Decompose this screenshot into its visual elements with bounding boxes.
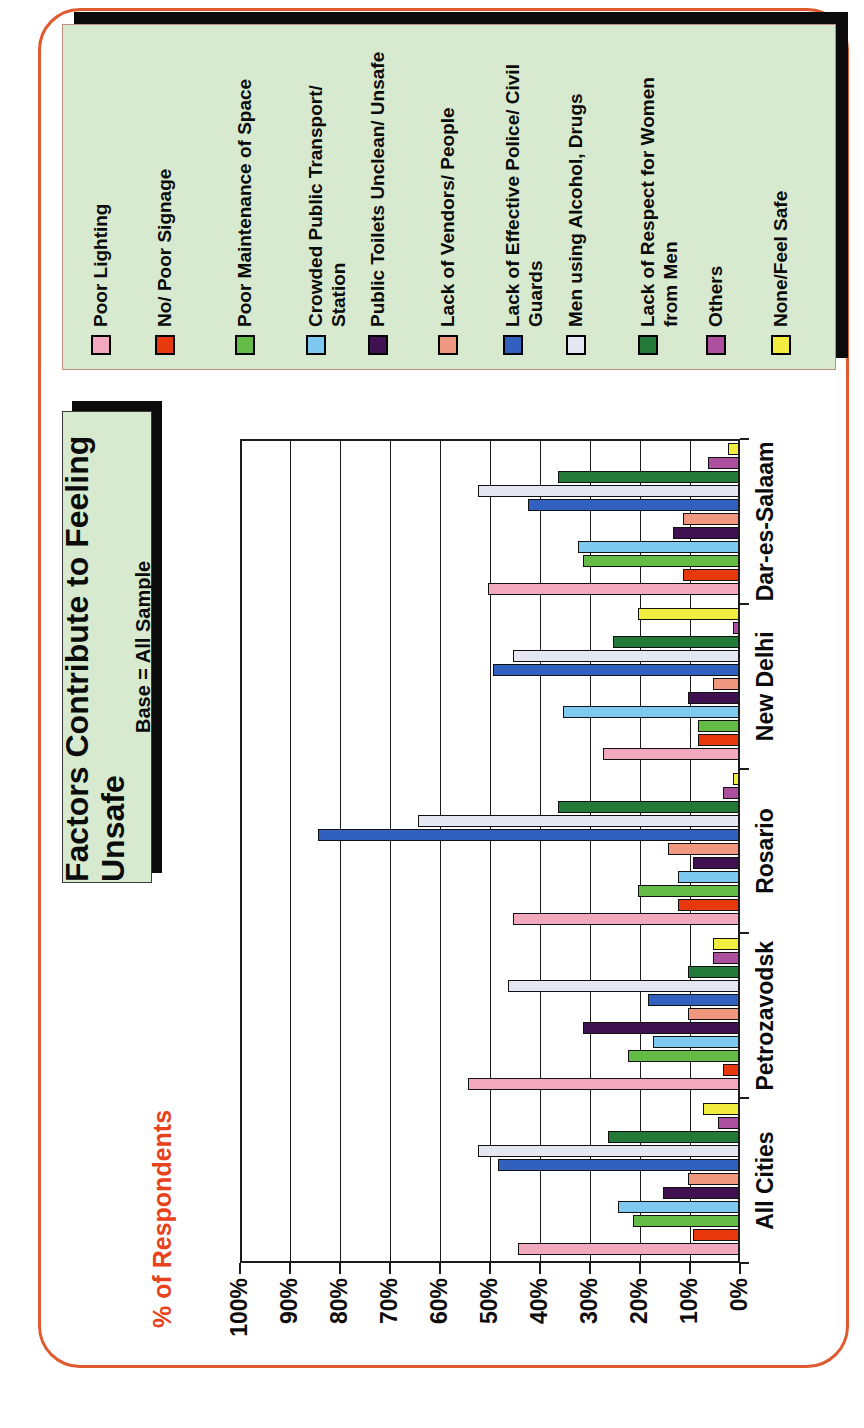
legend-item-crowded-public-transport-station: Crowded Public Transport/ Station <box>304 85 350 355</box>
y-axis-tick-60% <box>439 1263 441 1274</box>
bar-rosario-others <box>723 787 738 799</box>
bar-all-cities-lack-of-effective-police-civil-guards <box>498 1159 738 1171</box>
bar-dar-es-salaam-poor-lighting <box>488 583 738 595</box>
legend-item-no-poor-signage: No/ Poor Signage <box>153 169 176 355</box>
legend-item-public-toilets-unclean-unsafe: Public Toilets Unclean/ Unsafe <box>366 52 389 355</box>
bar-petrozavodsk-poor-lighting <box>468 1078 738 1090</box>
legend-swatch-others <box>706 335 726 355</box>
rotated-slide-content: Factors Contribute to Feeling Unsafe Bas… <box>0 0 864 1428</box>
bar-petrozavodsk-crowded-public-transport-station <box>653 1036 738 1048</box>
y-axis-label-100%: 100% <box>226 1278 253 1348</box>
legend-label-poor-maintenance-of-space: Poor Maintenance of Space <box>233 79 256 327</box>
bar-petrozavodsk-others <box>713 952 738 964</box>
bar-all-cities-poor-lighting <box>518 1243 738 1255</box>
y-axis-tick-0% <box>739 1263 741 1274</box>
legend-label-public-toilets-unclean-unsafe: Public Toilets Unclean/ Unsafe <box>366 52 389 327</box>
y-axis-label-30%: 30% <box>576 1278 603 1348</box>
category-axis-tick <box>740 603 749 605</box>
y-axis-label-40%: 40% <box>526 1278 553 1348</box>
y-axis-tick-90% <box>289 1263 291 1274</box>
bar-new-delhi-no-poor-signage <box>698 734 738 746</box>
category-label-petrozavodsk: Petrozavodsk <box>752 933 779 1098</box>
bar-new-delhi-crowded-public-transport-station <box>563 706 738 718</box>
legend-item-men-using-alcohol-drugs: Men using Alcohol, Drugs <box>564 93 587 355</box>
bar-new-delhi-none-feel-safe <box>638 608 738 620</box>
legend-item-none-feel-safe: None/Feel Safe <box>769 191 792 355</box>
y-axis-tick-40% <box>539 1263 541 1274</box>
bar-dar-es-salaam-lack-of-vendors-people <box>683 513 738 525</box>
legend-swatch-lack-of-vendors-people <box>438 335 458 355</box>
bar-new-delhi-lack-of-effective-police-civil-guards <box>493 664 738 676</box>
y-axis-label-80%: 80% <box>326 1278 353 1348</box>
legend-swatch-poor-maintenance-of-space <box>235 335 255 355</box>
bar-rosario-poor-maintenance-of-space <box>638 885 738 897</box>
bar-rosario-no-poor-signage <box>678 899 738 911</box>
bar-new-delhi-poor-maintenance-of-space <box>698 720 738 732</box>
bar-new-delhi-others <box>733 622 738 634</box>
legend-item-poor-lighting: Poor Lighting <box>89 204 112 355</box>
category-label-dar-es-salaam: Dar-es-Salaam <box>752 439 779 604</box>
gridline-70% <box>390 441 391 1261</box>
y-axis-tick-10% <box>689 1263 691 1274</box>
bar-dar-es-salaam-men-using-alcohol-drugs <box>478 485 738 497</box>
bar-rosario-crowded-public-transport-station <box>678 871 738 883</box>
bar-all-cities-men-using-alcohol-drugs <box>478 1145 738 1157</box>
bar-all-cities-public-toilets-unclean-unsafe <box>663 1187 738 1199</box>
y-axis-tick-100% <box>239 1263 241 1274</box>
bar-dar-es-salaam-others <box>708 457 738 469</box>
gridline-60% <box>440 441 441 1261</box>
legend-swatch-lack-of-effective-police-civil-guards <box>503 335 523 355</box>
bar-petrozavodsk-no-poor-signage <box>723 1064 738 1076</box>
legend-item-lack-of-effective-police-civil-guards: Lack of Effective Police/ Civil Guards <box>501 64 547 355</box>
bar-all-cities-no-poor-signage <box>693 1229 738 1241</box>
gridline-40% <box>540 441 541 1261</box>
y-axis-label-90%: 90% <box>276 1278 303 1348</box>
category-axis-tick <box>740 768 749 770</box>
y-axis-label-10%: 10% <box>676 1278 703 1348</box>
y-axis-label-50%: 50% <box>476 1278 503 1348</box>
chart-title-box: Factors Contribute to Feeling Unsafe Bas… <box>62 411 152 883</box>
legend-label-lack-of-vendors-people: Lack of Vendors/ People <box>436 107 459 327</box>
bar-petrozavodsk-lack-of-respect-for-women-from-men <box>688 966 738 978</box>
legend-label-lack-of-respect-for-women-from-men: Lack of Respect for Women from Men <box>636 77 682 327</box>
bar-dar-es-salaam-poor-maintenance-of-space <box>583 555 738 567</box>
legend-swatch-public-toilets-unclean-unsafe <box>368 335 388 355</box>
legend-label-none-feel-safe: None/Feel Safe <box>769 191 792 327</box>
y-axis-label-20%: 20% <box>626 1278 653 1348</box>
plot-area <box>240 439 740 1263</box>
bar-new-delhi-poor-lighting <box>603 748 738 760</box>
bar-all-cities-crowded-public-transport-station <box>618 1201 738 1213</box>
y-axis-tick-50% <box>489 1263 491 1274</box>
bar-dar-es-salaam-lack-of-respect-for-women-from-men <box>558 471 738 483</box>
y-axis-label-0%: 0% <box>726 1278 753 1348</box>
bar-petrozavodsk-men-using-alcohol-drugs <box>508 980 738 992</box>
legend-label-others: Others <box>704 266 727 327</box>
bar-petrozavodsk-none-feel-safe <box>713 938 738 950</box>
gridline-90% <box>290 441 291 1261</box>
legend-item-lack-of-respect-for-women-from-men: Lack of Respect for Women from Men <box>636 77 682 355</box>
category-label-rosario: Rosario <box>752 769 779 934</box>
legend-label-no-poor-signage: No/ Poor Signage <box>153 169 176 327</box>
gridline-50% <box>490 441 491 1261</box>
bar-new-delhi-lack-of-respect-for-women-from-men <box>613 636 738 648</box>
bar-new-delhi-men-using-alcohol-drugs <box>513 650 738 662</box>
y-axis-tick-20% <box>639 1263 641 1274</box>
bar-rosario-lack-of-respect-for-women-from-men <box>558 801 738 813</box>
bar-petrozavodsk-poor-maintenance-of-space <box>628 1050 738 1062</box>
legend-swatch-no-poor-signage <box>155 335 175 355</box>
bar-all-cities-others <box>718 1117 738 1129</box>
chart-subtitle: Base = All Sample <box>131 561 155 733</box>
chart-legend: Poor LightingNo/ Poor SignagePoor Mainte… <box>62 24 836 370</box>
bar-dar-es-salaam-crowded-public-transport-station <box>578 541 738 553</box>
gridline-80% <box>340 441 341 1261</box>
y-axis-tick-70% <box>389 1263 391 1274</box>
legend-swatch-men-using-alcohol-drugs <box>566 335 586 355</box>
bar-all-cities-lack-of-vendors-people <box>688 1173 738 1185</box>
bar-rosario-men-using-alcohol-drugs <box>418 815 738 827</box>
bar-rosario-none-feel-safe <box>733 773 738 785</box>
category-axis-tick <box>740 932 749 934</box>
y-axis-tick-80% <box>339 1263 341 1274</box>
category-axis-tick <box>740 1262 749 1264</box>
bar-all-cities-lack-of-respect-for-women-from-men <box>608 1131 738 1143</box>
legend-swatch-poor-lighting <box>91 335 111 355</box>
